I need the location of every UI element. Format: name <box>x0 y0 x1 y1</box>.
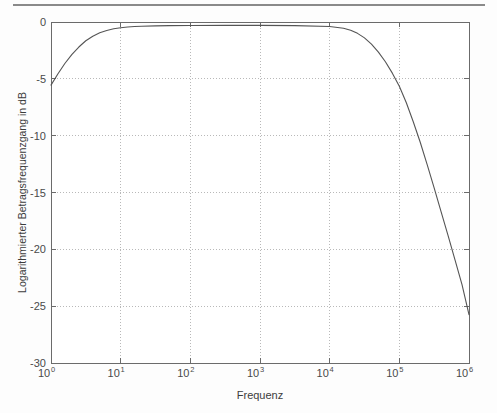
x-tick-label: 106 <box>456 365 473 379</box>
svg-text:10: 10 <box>38 367 50 379</box>
x-tick-label: 103 <box>247 365 264 379</box>
chart-figure: 0-5-10-15-20-25-30 100101102103104105106… <box>0 0 497 413</box>
svg-text:0: 0 <box>51 365 55 374</box>
x-tick-label: 104 <box>317 365 334 379</box>
svg-text:10: 10 <box>247 367 259 379</box>
figure-page: 0-5-10-15-20-25-30 100101102103104105106… <box>0 0 497 413</box>
y-axis-title: Logarithmierter Betragsfrequenzgang in d… <box>16 92 28 293</box>
svg-text:6: 6 <box>469 365 473 374</box>
svg-text:10: 10 <box>386 367 398 379</box>
x-tick-label: 101 <box>108 365 125 379</box>
svg-text:3: 3 <box>260 365 264 374</box>
svg-text:10: 10 <box>317 367 329 379</box>
x-axis-title: Frequenz <box>237 389 283 401</box>
y-tick-label: -20 <box>30 243 46 255</box>
y-tick-label: -25 <box>30 300 46 312</box>
svg-text:2: 2 <box>190 365 194 374</box>
x-tick-label: 100 <box>38 365 55 379</box>
svg-text:10: 10 <box>456 367 468 379</box>
y-tick-label: -5 <box>36 73 46 85</box>
x-tick-label: 105 <box>386 365 403 379</box>
y-tick-label: 0 <box>40 16 46 28</box>
svg-text:10: 10 <box>177 367 189 379</box>
y-tick-label: -15 <box>30 187 46 199</box>
svg-text:5: 5 <box>399 365 403 374</box>
svg-text:4: 4 <box>330 365 334 374</box>
x-axis-tick-labels: 100101102103104105106 <box>38 365 473 379</box>
chart-svg: 0-5-10-15-20-25-30 100101102103104105106… <box>0 0 497 413</box>
svg-text:10: 10 <box>108 367 120 379</box>
y-axis-tick-labels: 0-5-10-15-20-25-30 <box>30 16 46 369</box>
y-tick-label: -10 <box>30 130 46 142</box>
svg-text:1: 1 <box>121 365 125 374</box>
x-tick-label: 102 <box>177 365 194 379</box>
